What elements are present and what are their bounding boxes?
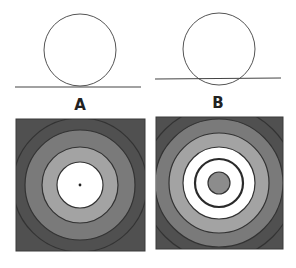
panel-a-label: A bbox=[74, 96, 86, 114]
panel-b-center-disc bbox=[208, 172, 230, 194]
panel-a-ring-pattern bbox=[13, 118, 147, 252]
panel-b-circle bbox=[183, 13, 255, 85]
panel-b-ring-pattern bbox=[143, 107, 295, 259]
panel-a-circle bbox=[44, 14, 116, 86]
panel-a-geometry: A bbox=[15, 14, 141, 114]
panel-b-geometry: B bbox=[155, 13, 281, 112]
panel-a-center-dot bbox=[79, 184, 82, 187]
panel-b-label: B bbox=[212, 94, 223, 112]
panel-b-secant-line bbox=[155, 78, 281, 79]
figure-canvas: A B bbox=[0, 0, 296, 268]
